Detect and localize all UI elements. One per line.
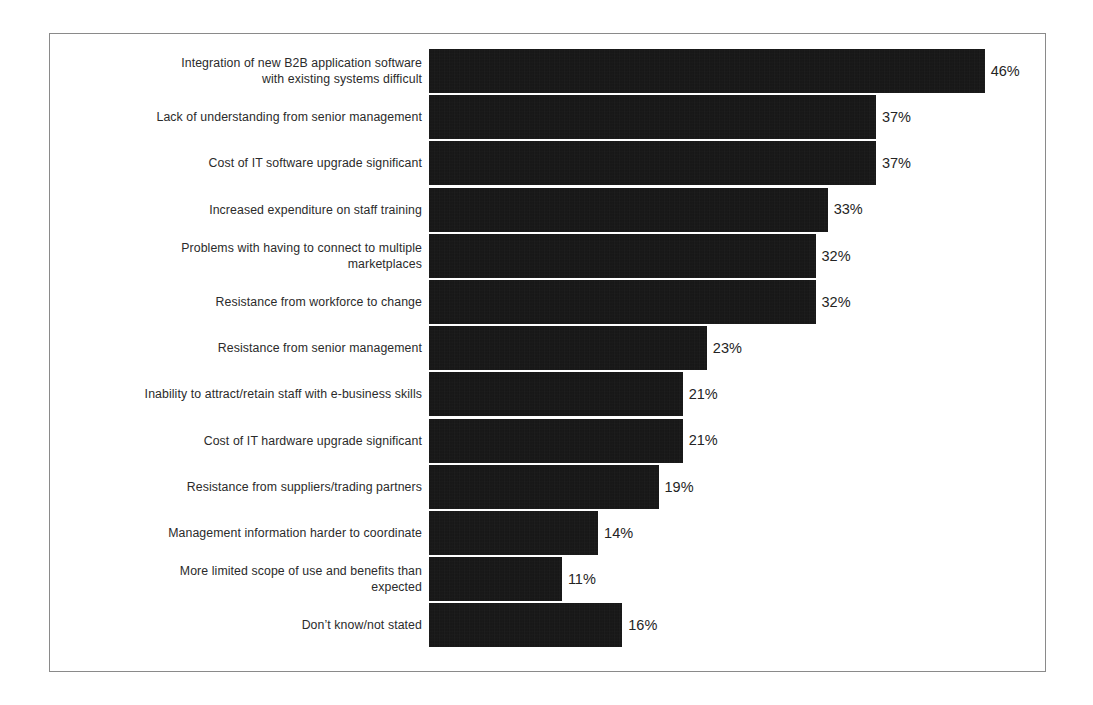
bar-value-label: 19% [665,480,694,495]
category-label: Lack of understanding from senior manage… [132,94,422,140]
category-label: Management information harder to coordin… [132,510,422,556]
bar-value-label: 14% [604,526,633,541]
bar [429,234,816,278]
category-label: Inability to attract/retain staff with e… [132,371,422,417]
bar-and-value: 33% [429,187,863,233]
bar-and-value: 46% [429,48,1020,94]
bar-row: Lack of understanding from senior manage… [50,94,1047,140]
bar-value-label: 32% [822,249,851,264]
bar-value-label: 33% [834,202,863,217]
bar [429,557,562,601]
bar-and-value: 37% [429,140,911,186]
bar [429,141,876,185]
bar-and-value: 21% [429,418,718,464]
bar-row: Resistance from senior management23% [50,325,1047,371]
bar-and-value: 32% [429,279,851,325]
category-label: Don’t know/not stated [132,602,422,648]
category-label: More limited scope of use and benefits t… [132,556,422,602]
bar-value-label: 21% [689,387,718,402]
category-label: Resistance from workforce to change [132,279,422,325]
bar-value-label: 11% [568,572,596,587]
bar [429,419,683,463]
bar [429,188,828,232]
bar-and-value: 23% [429,325,742,371]
bar-and-value: 19% [429,464,694,510]
bar-row: Don’t know/not stated16% [50,602,1047,648]
bar [429,511,598,555]
bar-and-value: 11% [429,556,596,602]
bar-chart-plot-area: Integration of new B2B application softw… [50,34,1047,673]
bar-and-value: 21% [429,371,718,417]
bar-row: Management information harder to coordin… [50,510,1047,556]
bar-and-value: 16% [429,602,657,648]
bar-and-value: 14% [429,510,633,556]
bar-and-value: 37% [429,94,911,140]
bar [429,280,816,324]
bar-value-label: 32% [822,295,851,310]
bar-value-label: 46% [991,64,1020,79]
category-label: Cost of IT software upgrade significant [132,140,422,186]
category-label: Cost of IT hardware upgrade significant [132,418,422,464]
bar-row: Integration of new B2B application softw… [50,48,1047,94]
bar [429,372,683,416]
category-label: Increased expenditure on staff training [132,187,422,233]
bar [429,49,985,93]
bar-row: Resistance from suppliers/trading partne… [50,464,1047,510]
bar-value-label: 37% [882,156,911,171]
bar-row: Cost of IT hardware upgrade significant2… [50,418,1047,464]
category-label: Problems with having to connect to multi… [132,233,422,279]
bar-row: Problems with having to connect to multi… [50,233,1047,279]
bar-value-label: 37% [882,110,911,125]
page-root: Integration of new B2B application softw… [0,0,1093,705]
bar-row: Cost of IT software upgrade significant3… [50,140,1047,186]
bar [429,603,622,647]
bar-and-value: 32% [429,233,851,279]
category-label: Resistance from suppliers/trading partne… [132,464,422,510]
category-label: Integration of new B2B application softw… [132,48,422,94]
bar [429,465,659,509]
bar [429,326,707,370]
bar-row: More limited scope of use and benefits t… [50,556,1047,602]
chart-frame: Integration of new B2B application softw… [49,33,1046,672]
bar-value-label: 23% [713,341,742,356]
bar-row: Resistance from workforce to change32% [50,279,1047,325]
bar-value-label: 21% [689,433,718,448]
bar [429,95,876,139]
bar-row: Increased expenditure on staff training3… [50,187,1047,233]
bar-row: Inability to attract/retain staff with e… [50,371,1047,417]
category-label: Resistance from senior management [132,325,422,371]
bar-value-label: 16% [628,618,657,633]
